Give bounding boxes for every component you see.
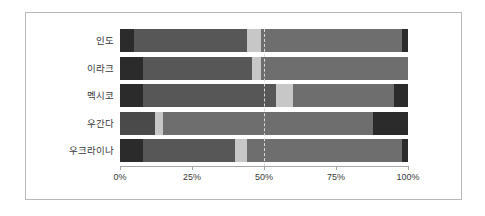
bar-segment bbox=[143, 139, 235, 162]
plot-area bbox=[120, 29, 408, 166]
bar-segment bbox=[143, 84, 275, 107]
bar-segment bbox=[276, 84, 293, 107]
bar-segment bbox=[261, 29, 402, 52]
category-label-0: 인도 bbox=[4, 29, 114, 52]
x-axis-tick-label: 50% bbox=[255, 172, 273, 182]
x-axis-tick bbox=[264, 166, 265, 170]
bar-row bbox=[120, 84, 408, 107]
x-axis-tick bbox=[192, 166, 193, 170]
bar-row bbox=[120, 112, 408, 135]
bar-segment bbox=[293, 84, 394, 107]
chart-figure: 인도 이라크 멕시코 우간다 우크라이나 0%25%50%75%100% bbox=[0, 0, 485, 216]
category-label-3: 우간다 bbox=[4, 112, 114, 135]
x-axis-tick-label: 25% bbox=[183, 172, 201, 182]
bar-segment bbox=[134, 29, 246, 52]
x-axis-tick bbox=[408, 166, 409, 170]
x-axis-tick bbox=[336, 166, 337, 170]
bar-segment bbox=[120, 57, 143, 80]
bar-row bbox=[120, 57, 408, 80]
bar-segment bbox=[235, 139, 247, 162]
bar-segment bbox=[252, 57, 261, 80]
bar-segment bbox=[402, 139, 408, 162]
bar-segment bbox=[120, 29, 134, 52]
bar-row bbox=[120, 139, 408, 162]
bar-segment bbox=[394, 84, 408, 107]
bar-segment bbox=[247, 29, 261, 52]
bar-segment bbox=[120, 112, 155, 135]
bar-segment bbox=[120, 139, 143, 162]
x-axis-tick-label: 0% bbox=[113, 172, 126, 182]
x-axis-tick-label: 100% bbox=[396, 172, 419, 182]
bar-segment bbox=[247, 139, 403, 162]
bar-segment bbox=[402, 29, 408, 52]
category-label-2: 멕시코 bbox=[4, 84, 114, 107]
x-axis: 0%25%50%75%100% bbox=[120, 166, 408, 167]
category-label-4: 우크라이나 bbox=[4, 139, 114, 162]
bar-segment bbox=[163, 112, 373, 135]
bar-row bbox=[120, 29, 408, 52]
x-axis-tick-label: 75% bbox=[327, 172, 345, 182]
category-label-1: 이라크 bbox=[4, 57, 114, 80]
bar-segment bbox=[120, 84, 143, 107]
bar-segment bbox=[373, 112, 408, 135]
bar-segment bbox=[155, 112, 164, 135]
bar-segment bbox=[143, 57, 252, 80]
bar-segment bbox=[261, 57, 408, 80]
category-axis: 인도 이라크 멕시코 우간다 우크라이나 bbox=[0, 29, 114, 166]
x-axis-tick bbox=[120, 166, 121, 170]
